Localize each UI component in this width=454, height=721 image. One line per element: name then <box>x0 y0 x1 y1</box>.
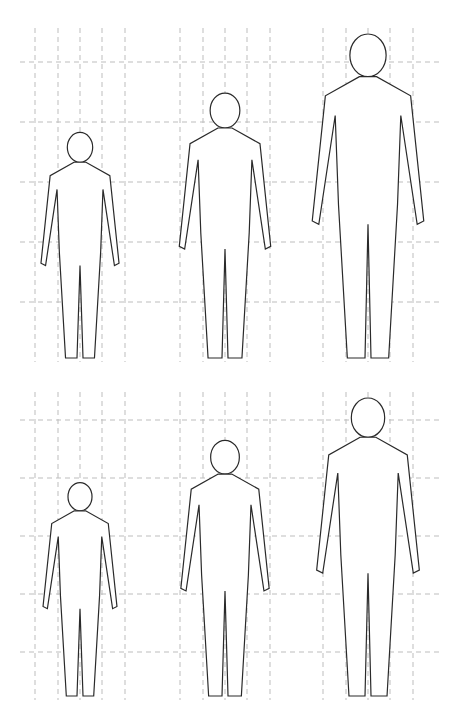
head-outline <box>211 440 240 474</box>
figure-silhouette <box>41 132 119 358</box>
body-outline <box>179 128 270 358</box>
head-outline <box>67 132 92 162</box>
figures <box>41 34 424 696</box>
body-outline <box>43 511 117 696</box>
growth-diagram <box>0 0 454 721</box>
body-outline <box>312 77 424 358</box>
head-outline <box>68 483 92 511</box>
head-outline <box>210 93 240 128</box>
head-outline <box>350 34 386 77</box>
figure-silhouette <box>317 398 420 696</box>
head-outline <box>351 398 384 437</box>
